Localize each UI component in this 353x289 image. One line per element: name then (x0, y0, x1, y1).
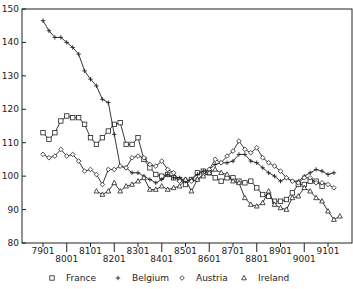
square-marker-icon (290, 191, 294, 195)
triangle-marker-icon (94, 189, 99, 193)
plus-marker-icon (314, 167, 318, 171)
square-marker-icon (278, 199, 282, 203)
square-marker-icon (65, 114, 69, 118)
square-marker-icon (53, 130, 57, 134)
diamond-marker-icon (130, 155, 135, 160)
triangle-marker-icon (112, 180, 117, 184)
y-tick-label: 80 (8, 238, 20, 248)
triangle-marker-icon (213, 167, 218, 171)
x-tick-label: 8301 (127, 246, 150, 256)
legend-item-ireland: Ireland (242, 273, 290, 283)
legend-label: Austria (196, 273, 228, 283)
square-marker-icon (47, 137, 51, 141)
square-marker-icon (76, 115, 80, 119)
y-tick-label: 150 (2, 4, 19, 14)
x-tick-label: 9001 (293, 254, 316, 264)
triangle-marker-icon (337, 214, 342, 218)
x-tick-label: 8901 (269, 246, 292, 256)
series-france (41, 114, 324, 204)
y-tick-label: 90 (8, 205, 20, 215)
triangle-marker-icon (242, 275, 247, 279)
x-tick-label: 8701 (222, 246, 245, 256)
square-marker-icon (94, 142, 98, 146)
plus-marker-icon (41, 19, 45, 23)
triangle-marker-icon (189, 189, 194, 193)
x-tick-label: 7901 (32, 246, 55, 256)
legend-label: Belgium (132, 273, 169, 283)
x-tick-label: 8101 (79, 246, 102, 256)
legend-label: France (66, 273, 96, 283)
x-tick-label: 9101 (317, 246, 340, 256)
series-layer (41, 19, 343, 222)
triangle-marker-icon (100, 192, 105, 196)
square-marker-icon (255, 186, 259, 190)
diamond-marker-icon (118, 164, 123, 169)
plus-marker-icon (225, 161, 229, 165)
diamond-marker-icon (41, 152, 46, 157)
y-tick-label: 140 (2, 37, 19, 47)
plus-marker-icon (136, 171, 140, 175)
x-tick-label: 8201 (103, 254, 126, 264)
square-marker-icon (88, 136, 92, 140)
diamond-marker-icon (136, 154, 141, 159)
triangle-marker-icon (136, 179, 141, 183)
square-marker-icon (219, 179, 223, 183)
x-tick-label: 8401 (150, 254, 173, 264)
x-axis: 7901810183018501870189019101800182018401… (32, 243, 340, 264)
square-marker-icon (213, 176, 217, 180)
triangle-marker-icon (219, 170, 224, 174)
y-tick-label: 130 (2, 71, 19, 81)
square-marker-icon (41, 130, 45, 134)
plus-marker-icon (326, 172, 330, 176)
series-line (43, 116, 322, 201)
plus-marker-icon (332, 171, 336, 175)
square-marker-icon (124, 142, 128, 146)
y-tick-label: 100 (2, 171, 19, 181)
legend-item-austria: Austria (180, 273, 228, 283)
y-tick-label: 120 (2, 104, 19, 114)
legend-item-france: France (50, 273, 97, 283)
triangle-marker-icon (130, 182, 135, 186)
square-marker-icon (118, 120, 122, 124)
square-marker-icon (59, 119, 63, 123)
series-belgium (41, 19, 336, 186)
triangle-marker-icon (260, 200, 265, 204)
y-tick-label: 110 (2, 138, 19, 148)
line-chart: 8090100110120130140150 79018101830185018… (0, 0, 353, 289)
square-marker-icon (100, 136, 104, 140)
diamond-marker-icon (47, 155, 52, 160)
plus-marker-icon (100, 97, 104, 101)
diamond-marker-icon (82, 169, 87, 174)
square-marker-icon (106, 129, 110, 133)
square-marker-icon (82, 122, 86, 126)
diamond-marker-icon (213, 157, 218, 162)
plus-marker-icon (112, 132, 116, 136)
x-tick-label: 8001 (55, 254, 78, 264)
square-marker-icon (243, 181, 247, 185)
square-marker-icon (50, 276, 54, 280)
diamond-marker-icon (112, 167, 117, 172)
plus-marker-icon (148, 177, 152, 181)
series-line (43, 21, 334, 183)
diamond-marker-icon (326, 182, 331, 187)
square-marker-icon (284, 197, 288, 201)
plus-marker-icon (154, 181, 158, 185)
triangle-marker-icon (278, 205, 283, 209)
plus-marker-icon (116, 276, 120, 280)
legend-item-belgium: Belgium (116, 273, 169, 283)
diamond-marker-icon (180, 276, 185, 281)
x-tick-label: 8501 (174, 246, 197, 256)
triangle-marker-icon (266, 189, 271, 193)
plus-marker-icon (106, 100, 110, 104)
diamond-marker-icon (106, 167, 111, 172)
square-marker-icon (136, 136, 140, 140)
legend: FranceBelgiumAustriaIreland (50, 273, 289, 283)
square-marker-icon (70, 115, 74, 119)
triangle-marker-icon (308, 189, 313, 193)
x-tick-label: 8601 (198, 254, 221, 264)
series-ireland (94, 167, 342, 222)
square-marker-icon (130, 142, 134, 146)
plus-marker-icon (308, 171, 312, 175)
square-marker-icon (260, 192, 264, 196)
triangle-marker-icon (159, 184, 164, 188)
